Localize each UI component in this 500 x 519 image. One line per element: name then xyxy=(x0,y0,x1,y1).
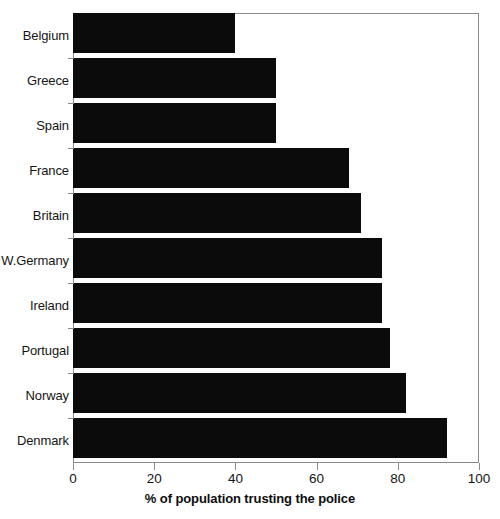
bar-portugal[interactable] xyxy=(73,328,390,368)
y-axis-tick xyxy=(68,58,74,59)
bar-greece[interactable] xyxy=(73,58,276,98)
bar-band xyxy=(73,103,479,148)
y-axis-tick xyxy=(68,418,74,419)
category-row: W.Germany xyxy=(0,238,69,283)
bar-denmark[interactable] xyxy=(73,418,447,458)
category-row: France xyxy=(0,148,69,193)
x-axis-tick-label: 40 xyxy=(210,471,260,487)
category-label-france: France xyxy=(29,164,69,177)
bar-norway[interactable] xyxy=(73,373,406,413)
bar-band xyxy=(73,418,479,463)
x-axis-tick-label: 80 xyxy=(373,471,423,487)
x-axis-tick-label: 60 xyxy=(292,471,342,487)
x-axis-tick xyxy=(154,463,155,470)
bar-band xyxy=(73,193,479,238)
category-row: Spain xyxy=(0,103,69,148)
bar-france[interactable] xyxy=(73,148,349,188)
x-axis-tick xyxy=(398,463,399,470)
category-row: Ireland xyxy=(0,283,69,328)
bar-britain[interactable] xyxy=(73,193,361,233)
x-axis-tick-label: 0 xyxy=(48,471,98,487)
x-axis-tick xyxy=(317,463,318,470)
bar-band xyxy=(73,148,479,193)
y-axis-tick xyxy=(68,193,74,194)
category-row: Portugal xyxy=(0,328,69,373)
y-axis-tick xyxy=(68,103,74,104)
category-label-denmark: Denmark xyxy=(17,434,69,447)
bar-band xyxy=(73,283,479,328)
category-row: Norway xyxy=(0,373,69,418)
y-axis-tick xyxy=(68,373,74,374)
category-label-norway: Norway xyxy=(26,389,69,402)
y-axis-tick xyxy=(68,148,74,149)
bar-band xyxy=(73,238,479,283)
bar-band xyxy=(73,13,479,58)
bar-band xyxy=(73,373,479,418)
bars-layer xyxy=(73,13,479,463)
x-axis-tick xyxy=(479,463,480,470)
y-axis-tick xyxy=(68,328,74,329)
category-row: Greece xyxy=(0,58,69,103)
y-axis-tick xyxy=(68,238,74,239)
bar-band xyxy=(73,58,479,103)
bar-band xyxy=(73,328,479,373)
y-axis-tick xyxy=(68,283,74,284)
x-axis-tick xyxy=(235,463,236,470)
bar-chart: BelgiumGreeceSpainFranceBritainW.Germany… xyxy=(0,0,500,519)
category-row: Britain xyxy=(0,193,69,238)
x-axis-tick xyxy=(73,463,74,470)
bar-ireland[interactable] xyxy=(73,283,382,323)
category-label-spain: Spain xyxy=(36,119,69,132)
x-axis-title: % of population trusting the police xyxy=(0,491,500,506)
category-label-w-germany: W.Germany xyxy=(1,254,69,267)
category-axis-labels: BelgiumGreeceSpainFranceBritainW.Germany… xyxy=(0,13,69,463)
category-row: Denmark xyxy=(0,418,69,463)
category-label-portugal: Portugal xyxy=(21,344,69,357)
x-axis-tick-label: 100 xyxy=(454,471,500,487)
category-row: Belgium xyxy=(0,13,69,58)
category-label-ireland: Ireland xyxy=(30,299,69,312)
category-label-greece: Greece xyxy=(27,74,69,87)
bar-spain[interactable] xyxy=(73,103,276,143)
category-label-belgium: Belgium xyxy=(23,29,69,42)
bar-w-germany[interactable] xyxy=(73,238,382,278)
category-label-britain: Britain xyxy=(33,209,69,222)
x-axis-tick-label: 20 xyxy=(129,471,179,487)
bar-belgium[interactable] xyxy=(73,13,235,53)
